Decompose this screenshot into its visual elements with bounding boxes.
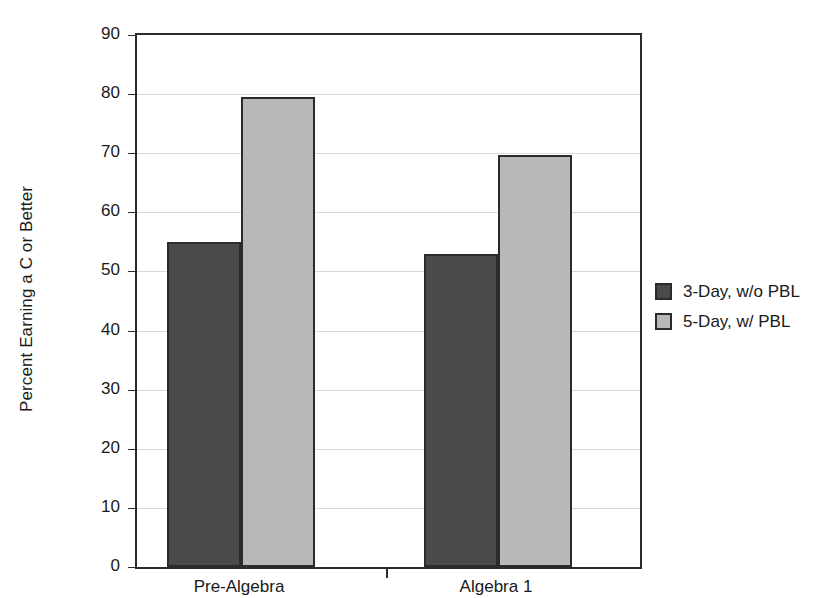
y-axis-tick-label: 50: [74, 261, 120, 278]
legend-label: 5-Day, w/ PBL: [683, 313, 790, 330]
y-axis-tick-label: 60: [74, 202, 120, 219]
y-axis-tick-label: 90: [74, 25, 120, 42]
bar: [241, 97, 315, 567]
y-axis-tick-label: 40: [74, 320, 120, 337]
x-axis-category-label: Pre-Algebra: [129, 578, 349, 595]
y-axis-tick: [128, 508, 137, 509]
y-axis-tick-label: 0: [74, 557, 120, 574]
legend: 3-Day, w/o PBL5-Day, w/ PBL: [655, 276, 800, 336]
y-axis-tick: [128, 212, 137, 213]
bar: [498, 155, 572, 567]
x-axis-category-label: Algebra 1: [386, 578, 606, 595]
y-axis-tick-label: 20: [74, 438, 120, 455]
y-axis-tick: [128, 390, 137, 391]
legend-swatch-icon: [655, 283, 672, 300]
y-axis-tick-label: 10: [74, 497, 120, 514]
y-axis-tick-label: 80: [74, 84, 120, 101]
y-axis-tick: [128, 567, 137, 568]
y-axis-tick-labels: 0102030405060708090: [74, 33, 120, 565]
legend-item[interactable]: 5-Day, w/ PBL: [655, 306, 800, 336]
x-axis-center-tick: [386, 567, 388, 578]
legend-label: 3-Day, w/o PBL: [683, 283, 800, 300]
y-axis-tick: [128, 331, 137, 332]
gridline: [137, 94, 640, 95]
y-axis-tick: [128, 35, 137, 36]
y-axis-tick: [128, 94, 137, 95]
legend-item[interactable]: 3-Day, w/o PBL: [655, 276, 800, 306]
bar: [167, 242, 241, 567]
y-axis-tick-label: 30: [74, 379, 120, 396]
y-axis-title: Percent Earning a C or Better: [14, 33, 40, 565]
y-axis-tick: [128, 153, 137, 154]
bar: [424, 254, 498, 567]
bar-chart-figure: Percent Earning a C or Better 0102030405…: [0, 0, 838, 598]
plot-area: [135, 33, 642, 569]
y-axis-tick: [128, 449, 137, 450]
y-axis-tick-label: 70: [74, 143, 120, 160]
y-axis-tick: [128, 271, 137, 272]
legend-swatch-icon: [655, 313, 672, 330]
